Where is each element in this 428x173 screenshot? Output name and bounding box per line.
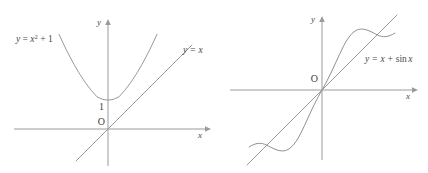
right-figure-svg: y x O y = x + sinx <box>214 0 428 173</box>
left-x-axis-label: x <box>197 130 202 140</box>
right-y-axis-label: y <box>310 14 315 24</box>
left-y-axis-label: y <box>96 17 101 27</box>
left-origin-label: O <box>98 116 105 127</box>
left-identity-equation-label: y = x <box>182 45 203 55</box>
right-curve-equation-label: y = x + sinx <box>364 54 413 64</box>
left-parabola-equation-label: y = x2 + 1 <box>15 33 53 44</box>
figure-pair: y x 1 O y = x2 + 1 y = x <box>0 0 428 173</box>
left-figure-svg: y x 1 O y = x2 + 1 y = x <box>0 0 214 173</box>
left-unit-tick-label: 1 <box>99 101 104 112</box>
right-x-axis-arrowhead <box>412 87 418 93</box>
left-x-axis-arrowhead <box>205 126 211 132</box>
left-y-axis-arrowhead <box>105 19 111 25</box>
right-figure-panel: y x O y = x + sinx <box>214 0 428 173</box>
right-x-axis-label: x <box>405 91 410 101</box>
left-figure-panel: y x 1 O y = x2 + 1 y = x <box>0 0 214 173</box>
right-origin-label: O <box>311 73 318 84</box>
left-identity-line <box>76 45 192 161</box>
right-y-axis-arrowhead <box>319 16 325 22</box>
